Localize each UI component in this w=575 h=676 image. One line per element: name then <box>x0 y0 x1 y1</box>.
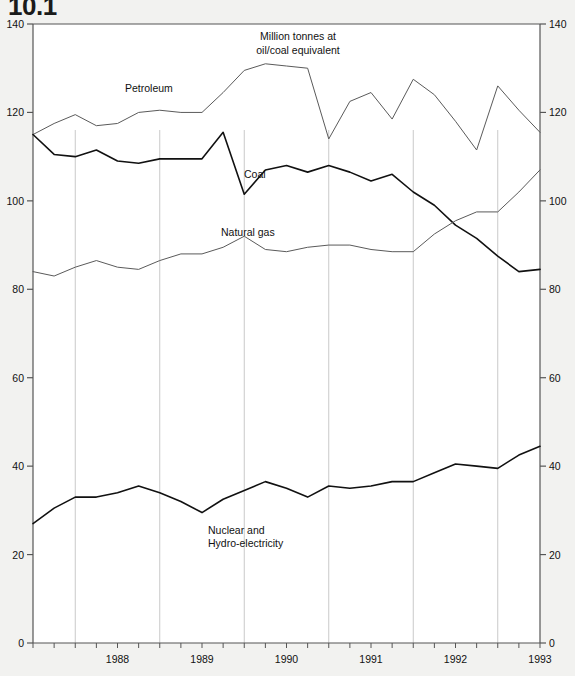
x-axis-label-year: 1993 <box>528 653 551 665</box>
y-axis-label-left: 80 <box>0 283 24 295</box>
y-axis-label-right: 0 <box>549 637 555 649</box>
chart-figure: 10.1 Million tonnes at oil/coal equivale… <box>0 0 575 676</box>
series-label-nuclear-hydro: Nuclear and Hydro-electricity <box>208 524 283 550</box>
y-axis-label-left: 20 <box>0 549 24 561</box>
y-axis-label-left: 0 <box>0 637 24 649</box>
series-label-natural-gas: Natural gas <box>221 226 275 239</box>
series-label-coal: Coal <box>244 168 266 181</box>
y-axis-label-right: 100 <box>549 195 567 207</box>
y-axis-label-right: 80 <box>549 283 561 295</box>
y-axis-label-left: 40 <box>0 460 24 472</box>
y-axis-label-right: 20 <box>549 549 561 561</box>
series-label-nuclear-line2: Hydro-electricity <box>208 537 283 549</box>
x-axis-label-year: 1991 <box>359 653 382 665</box>
x-axis-label-year: 1990 <box>275 653 298 665</box>
y-axis-label-right: 140 <box>549 18 567 30</box>
y-axis-label-left: 100 <box>0 195 24 207</box>
y-axis-label-left: 120 <box>0 106 24 118</box>
x-axis-label-year: 1988 <box>106 653 129 665</box>
x-axis-label-year: 1992 <box>444 653 467 665</box>
chart-unit-note: Million tonnes at oil/coal equivalent <box>228 30 368 57</box>
x-axis-label-year: 1989 <box>190 653 213 665</box>
y-axis-label-right: 60 <box>549 372 561 384</box>
series-label-nuclear-line1: Nuclear and <box>208 524 265 536</box>
series-label-petroleum: Petroleum <box>125 82 173 95</box>
y-axis-label-left: 140 <box>0 18 24 30</box>
plot-background <box>33 24 540 643</box>
y-axis-label-left: 60 <box>0 372 24 384</box>
y-axis-label-right: 120 <box>549 106 567 118</box>
chart-plot-svg <box>0 0 575 676</box>
y-axis-label-right: 40 <box>549 460 561 472</box>
